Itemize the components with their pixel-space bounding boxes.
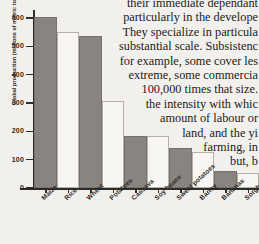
y-axis-tick-label: 300: [0, 99, 24, 106]
y-axis-tick-label: 0: [0, 184, 24, 191]
figure-page: their immediate dependantparticularly in…: [0, 0, 259, 244]
bar-chart: Global production (millions of metric to…: [0, 0, 259, 244]
bar-maize: [34, 17, 57, 188]
bar-rice: [57, 32, 80, 188]
y-axis-tick: [26, 74, 34, 75]
y-axis-tick: [26, 17, 34, 18]
y-axis-tick-label: 100: [0, 156, 24, 163]
y-axis-tick-label: 500: [0, 42, 24, 49]
y-axis-tick-label: 400: [0, 71, 24, 78]
bar-potatoes: [102, 101, 125, 188]
bar-wheat: [79, 36, 102, 188]
y-axis-tick-label: 200: [0, 127, 24, 134]
y-axis-tick: [26, 102, 34, 103]
y-axis-tick-label: 600: [0, 14, 24, 21]
y-axis-tick: [26, 159, 34, 160]
y-axis-tick: [26, 131, 34, 132]
y-axis-tick: [26, 46, 34, 47]
y-axis-tick: [26, 187, 34, 188]
